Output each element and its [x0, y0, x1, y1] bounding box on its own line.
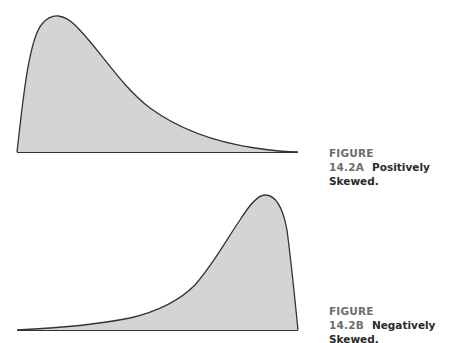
negatively-skewed-curve — [17, 195, 298, 331]
figure-a-caption: FIGURE 14.2APositively Skewed. — [329, 146, 467, 188]
figure-b-number: FIGURE 14.2B — [329, 305, 374, 331]
positively-skewed-curve — [17, 16, 298, 153]
figure-a-number: FIGURE 14.2A — [329, 147, 374, 173]
figure-b-caption: FIGURE 14.2BNegatively Skewed. — [329, 304, 467, 343]
